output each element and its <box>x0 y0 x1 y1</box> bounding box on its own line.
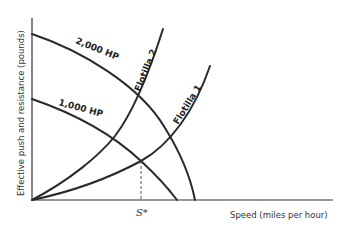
label-2000hp: 2,000 HP <box>74 36 121 63</box>
label-flotilla-2: Flotilla 2 <box>133 48 159 93</box>
label-1000hp: 1,000 HP <box>57 97 104 119</box>
curve-flotilla-1 <box>32 66 210 200</box>
label-flotilla-1: Flotilla 1 <box>171 83 203 126</box>
y-axis-label: Effective push and resistance (pounds) <box>16 30 26 196</box>
label-s-star: S* <box>136 207 148 218</box>
push-resistance-diagram: 2,000 HP 1,000 HP Flotilla 2 Flotilla 1 … <box>0 0 347 227</box>
x-axis-label: Speed (miles per hour) <box>230 210 328 220</box>
